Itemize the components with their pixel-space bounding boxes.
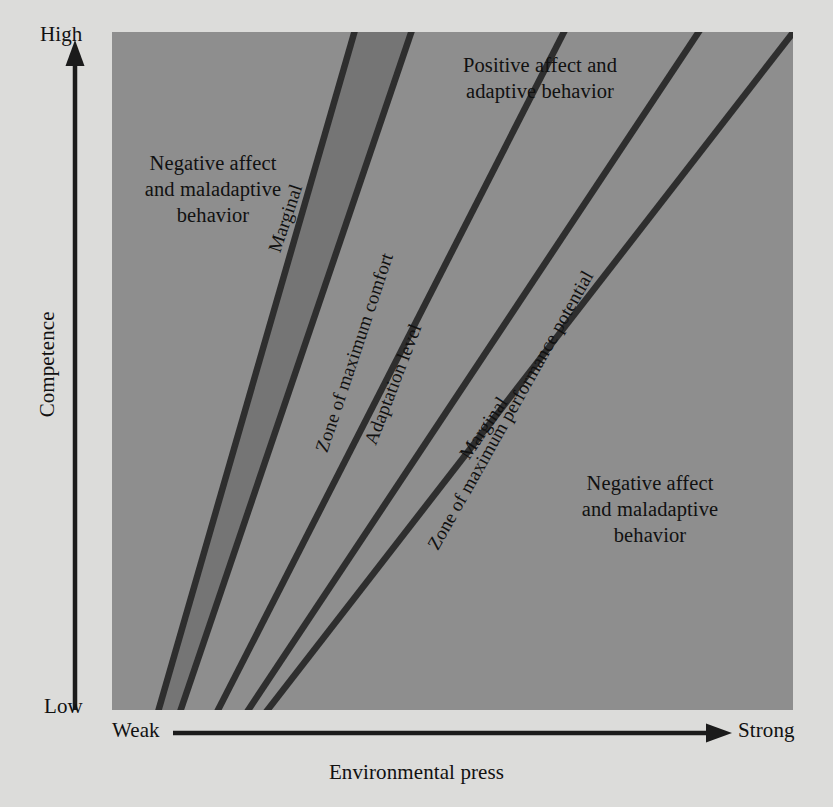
x-axis-title: Environmental press [0, 760, 833, 785]
y-axis-title: Competence [35, 294, 60, 434]
y-axis-low-label: Low [44, 694, 83, 719]
figure-container: High Low Weak Strong Competence Environm… [0, 0, 833, 807]
diagram-canvas [0, 0, 833, 807]
x-axis-strong-label: Strong [738, 718, 795, 743]
y-axis-high-label: High [40, 22, 82, 47]
y-axis-arrow [66, 40, 85, 710]
zone-label-negative-affect-lower: Negative affect and maladaptive behavior [545, 470, 755, 549]
zone-label-positive-affect: Positive affect and adaptive behavior [430, 52, 650, 104]
x-axis-arrow [173, 724, 732, 743]
x-axis-weak-label: Weak [112, 718, 160, 743]
